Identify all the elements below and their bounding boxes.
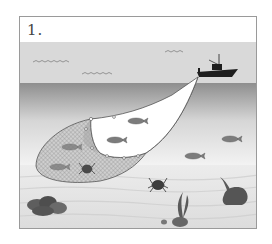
trawl-scene: [20, 17, 257, 229]
illustration-frame: 1.: [19, 16, 257, 229]
